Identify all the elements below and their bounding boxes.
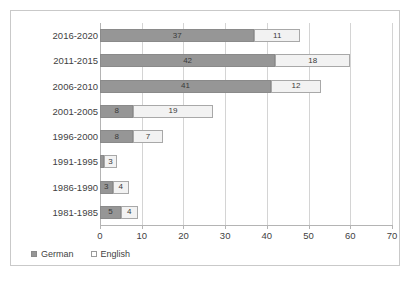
x-tick-label: 50 <box>303 230 314 241</box>
bar-row: 4218 <box>100 54 392 67</box>
bar-rows: 3711421841128198733454 <box>100 23 392 225</box>
bar-segment-german: 8 <box>100 130 133 143</box>
bar-segment-english: 11 <box>254 29 300 42</box>
x-axis-line <box>100 225 392 226</box>
bar-segment-german: 8 <box>100 105 133 118</box>
category-label: 2001-2005 <box>23 105 98 118</box>
bar-row: 34 <box>100 181 392 194</box>
bar-segment-english: 18 <box>275 54 350 67</box>
bar-row: 54 <box>100 206 392 219</box>
x-tickmark-10 <box>142 225 143 229</box>
legend-label: English <box>101 249 131 259</box>
legend-swatch-icon <box>31 251 37 257</box>
chart-frame: 2016-20202011-20152006-20102001-20051996… <box>10 10 400 266</box>
category-axis-labels: 2016-20202011-20152006-20102001-20051996… <box>23 23 98 225</box>
x-tickmark-0 <box>100 225 101 229</box>
x-tickmark-70 <box>392 225 393 229</box>
x-tickmark-40 <box>267 225 268 229</box>
bar-segment-english: 4 <box>113 181 130 194</box>
gridline-70 <box>392 23 393 225</box>
x-tick-label: 20 <box>178 230 189 241</box>
x-tickmark-20 <box>183 225 184 229</box>
legend-item-english[interactable]: English <box>91 249 131 259</box>
plot-area: 3711421841128198733454 <box>100 23 392 225</box>
legend-swatch-icon <box>91 251 97 257</box>
legend-label: German <box>41 249 74 259</box>
x-tickmark-60 <box>350 225 351 229</box>
bar-row: 3711 <box>100 29 392 42</box>
bar-segment-english: 19 <box>133 105 212 118</box>
bar-segment-english: 3 <box>104 155 117 168</box>
bar-row: 87 <box>100 130 392 143</box>
bar-segment-german: 5 <box>100 206 121 219</box>
x-tick-label: 40 <box>262 230 273 241</box>
x-tick-label: 30 <box>220 230 231 241</box>
x-tick-label: 10 <box>136 230 147 241</box>
bar-segment-german: 41 <box>100 80 271 93</box>
legend-item-german[interactable]: German <box>31 249 74 259</box>
x-axis-tick-labels: 010203040506070 <box>100 230 392 244</box>
x-tick-label: 60 <box>345 230 356 241</box>
category-label: 1986-1990 <box>23 181 98 194</box>
x-tick-label: 70 <box>387 230 398 241</box>
bar-row: 4112 <box>100 80 392 93</box>
category-label: 1981-1985 <box>23 206 98 219</box>
x-tickmark-50 <box>309 225 310 229</box>
category-label: 2011-2015 <box>23 54 98 67</box>
x-tick-label: 0 <box>97 230 102 241</box>
category-label: 2006-2010 <box>23 80 98 93</box>
bar-segment-english: 7 <box>133 130 162 143</box>
bar-segment-german: 42 <box>100 54 275 67</box>
bar-segment-german: 3 <box>100 181 113 194</box>
bar-segment-german: 37 <box>100 29 254 42</box>
category-label: 1991-1995 <box>23 155 98 168</box>
category-label: 1996-2000 <box>23 130 98 143</box>
bar-segment-english: 12 <box>271 80 321 93</box>
bar-segment-english: 4 <box>121 206 138 219</box>
chart-legend: GermanEnglish <box>31 249 130 259</box>
category-label: 2016-2020 <box>23 29 98 42</box>
bar-row: 819 <box>100 105 392 118</box>
x-tickmark-30 <box>225 225 226 229</box>
bar-row: 3 <box>100 155 392 168</box>
